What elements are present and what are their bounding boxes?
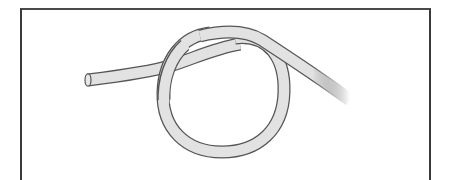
rope-cut-end: [85, 74, 91, 86]
rope-loop-overcross: [164, 44, 186, 104]
overhand-knot-illustration: [0, 0, 458, 180]
